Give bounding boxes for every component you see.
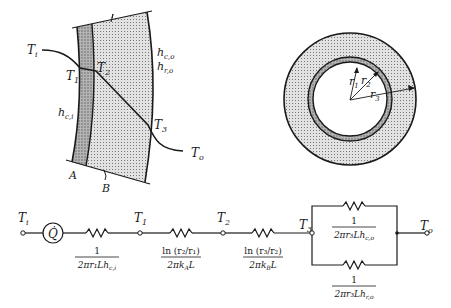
formula-R2: ln (r₂/r₁) 2πkAL: [161, 246, 201, 271]
resistor-R2: [170, 229, 192, 237]
resistor-R4: [343, 202, 365, 210]
resistor-R5: [343, 261, 365, 269]
label-layer-a: A: [68, 169, 77, 182]
label-hci: hc,i: [58, 106, 73, 121]
svg-text:2πr₁Lhc,i: 2πr₁Lhc,i: [77, 260, 117, 271]
node-Ti: [21, 231, 25, 235]
svg-text:1: 1: [351, 216, 357, 226]
label-Ti: Ti: [27, 43, 38, 59]
svg-text:2πr₃Lhc,o: 2πr₃Lhc,o: [333, 230, 375, 241]
circuit-label-Ti: Ti: [18, 211, 29, 227]
label-To: To: [191, 146, 204, 162]
resistor-R1: [86, 229, 108, 237]
formula-R4: 1 2πr₃Lhc,o: [332, 216, 376, 241]
label-hro: hr,o: [157, 60, 173, 75]
node-T1: [138, 231, 142, 235]
node-T2: [221, 231, 225, 235]
svg-text:2πr₃Lhr,o: 2πr₃Lhr,o: [333, 289, 373, 300]
svg-text:1: 1: [351, 275, 357, 285]
formula-R3: ln (r₃/r₂) 2πkBL: [243, 246, 283, 271]
svg-text:ln (r₃/r₂): ln (r₃/r₂): [244, 246, 281, 256]
svg-text:ln (r₂/r₁): ln (r₂/r₁): [162, 246, 199, 256]
label-T3: T3: [154, 118, 167, 134]
thermal-resistance-diagram: Ti T1 T2 T3 To hc,i hc,o hr,o A B r1 r2 …: [0, 0, 451, 308]
resistor-R3: [252, 229, 274, 237]
formula-R1: 1 2πr₁Lhc,i: [75, 246, 119, 271]
circuit-label-To: To: [420, 219, 433, 235]
svg-text:1: 1: [94, 246, 100, 256]
svg-text:2πkAL: 2πkAL: [166, 260, 194, 271]
label-hco: hc,o: [157, 46, 174, 61]
junction-out: [395, 231, 399, 235]
circuit-label-T3: T3: [299, 218, 312, 234]
wall-diagram: Ti T1 T2 T3 To hc,i hc,o hr,o A B: [27, 11, 204, 195]
circuit-label-Q: Q̇: [48, 226, 58, 241]
label-T1: T1: [66, 69, 79, 85]
circuit-label-T1: T1: [134, 211, 147, 227]
formula-R5: 1 2πr₃Lhr,o: [332, 275, 376, 300]
svg-text:2πkBL: 2πkBL: [248, 260, 277, 271]
layer-b: [86, 12, 153, 182]
cylinder-cross-section: r1 r2 r3: [284, 33, 416, 165]
label-layer-b: B: [101, 182, 110, 195]
circuit-label-T2: T2: [217, 211, 230, 227]
